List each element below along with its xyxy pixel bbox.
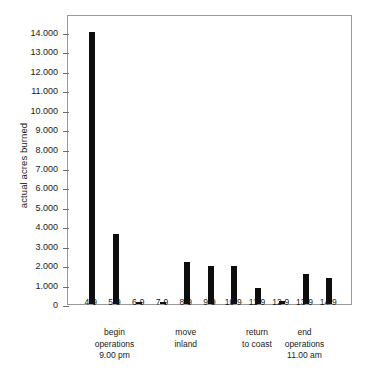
y-axis-tick: 7.000 <box>63 170 69 171</box>
y-axis-tick: 3.000 <box>63 248 69 249</box>
x-axis-tick-label: 11-9 <box>249 297 265 307</box>
x-axis-tick-label: 12-9 <box>272 297 289 307</box>
x-axis-tick-label: 13-9 <box>296 297 313 307</box>
x-axis-tick-label: 6-9 <box>132 297 144 307</box>
y-axis-tick: 13.000 <box>63 53 69 54</box>
y-axis-tick-label: 0 <box>53 300 58 310</box>
y-axis-tick-label: 12.000 <box>30 67 58 77</box>
y-axis-tick: 14.000 <box>63 34 69 35</box>
y-axis-tick: 1.000 <box>63 287 69 288</box>
y-axis-tick-label: 13.000 <box>30 47 58 57</box>
bar <box>89 32 95 304</box>
y-axis-tick-label: 10.000 <box>30 106 58 116</box>
y-axis-tick-label: 9.000 <box>35 125 58 135</box>
y-axis-tick-label: 5.000 <box>35 203 58 213</box>
bar-chart-figure: actual acres burned 01.0002.0003.0004.00… <box>0 0 391 377</box>
y-axis-tick: 8.000 <box>63 151 69 152</box>
y-axis-tick: 10.000 <box>63 112 69 113</box>
y-axis-tick-label: 6.000 <box>35 183 58 193</box>
y-axis-tick-label: 4.000 <box>35 222 58 232</box>
plot-frame: 01.0002.0003.0004.0005.0006.0007.0008.00… <box>67 15 352 305</box>
event-annotation: move inland <box>174 327 197 350</box>
event-annotation: begin operations 9.00 pm <box>95 327 135 362</box>
x-axis-tick-label: 5-9 <box>108 297 120 307</box>
y-axis-tick: 12.000 <box>63 73 69 74</box>
y-axis-tick: 0 <box>63 306 69 307</box>
x-axis-tick-label: 8-9 <box>180 297 192 307</box>
y-axis-tick: 6.000 <box>63 189 69 190</box>
event-annotation: end operations 11.00 am <box>285 327 325 362</box>
y-axis-tick-label: 3.000 <box>35 242 58 252</box>
x-axis-tick-label: 4-9 <box>85 297 97 307</box>
y-axis-tick: 2.000 <box>63 267 69 268</box>
y-axis-title: actual acres burned <box>18 66 29 266</box>
y-axis-tick-label: 11.000 <box>31 86 58 96</box>
y-axis-tick: 5.000 <box>63 209 69 210</box>
y-axis-tick: 11.000 <box>63 92 69 93</box>
y-axis-tick-label: 8.000 <box>35 145 58 155</box>
y-axis-tick: 9.000 <box>63 131 69 132</box>
y-axis-tick-label: 7.000 <box>35 164 58 174</box>
event-annotation: return to coast <box>242 327 272 350</box>
x-axis-tick-label: 10-9 <box>225 297 242 307</box>
bar <box>113 234 119 304</box>
x-axis-tick-label: 9-9 <box>203 297 215 307</box>
x-axis-tick-label: 14-9 <box>320 297 337 307</box>
y-axis-tick-label: 14.000 <box>30 28 58 38</box>
x-axis-tick-label: 7-9 <box>156 297 168 307</box>
y-axis-tick-label: 2.000 <box>35 261 58 271</box>
plot-area: 01.0002.0003.0004.0005.0006.0007.0008.00… <box>68 16 351 304</box>
y-axis-tick-label: 1.000 <box>35 281 58 291</box>
y-axis-tick: 4.000 <box>63 228 69 229</box>
